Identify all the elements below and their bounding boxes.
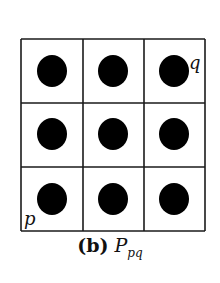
dot	[37, 55, 67, 87]
caption-prefix: (b)	[77, 234, 108, 256]
dot	[37, 183, 67, 215]
dot	[159, 118, 189, 150]
dot	[98, 183, 128, 215]
grid-dots	[37, 55, 189, 215]
figure-caption: (b) Ppq	[0, 234, 220, 260]
dot	[159, 183, 189, 215]
dot	[98, 55, 128, 87]
dot	[159, 55, 189, 87]
label-p: p	[24, 208, 36, 229]
caption-subscript: pq	[127, 246, 142, 260]
dot	[98, 118, 128, 150]
dot	[37, 118, 67, 150]
caption-symbol: P	[115, 234, 128, 256]
label-q: q	[189, 52, 201, 73]
